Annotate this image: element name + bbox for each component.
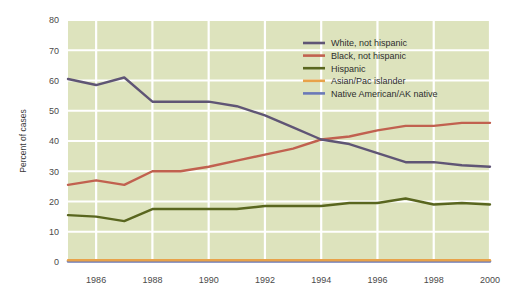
y-tick-label: 60 — [49, 76, 59, 86]
legend-label: Black, not hispanic — [331, 51, 407, 61]
x-tick-label: 1988 — [142, 275, 162, 285]
x-tick-label: 1996 — [367, 275, 387, 285]
x-tick-label: 2000 — [480, 275, 500, 285]
chart-container: 01020304050607080 1986198819901992199419… — [0, 0, 525, 301]
y-axis-tick-labels: 01020304050607080 — [49, 15, 59, 267]
x-tick-label: 1990 — [199, 275, 219, 285]
y-tick-label: 0 — [54, 257, 59, 267]
y-tick-label: 30 — [49, 167, 59, 177]
legend-label: White, not hispanic — [331, 38, 408, 48]
y-tick-label: 10 — [49, 227, 59, 237]
y-tick-label: 40 — [49, 136, 59, 146]
y-tick-label: 70 — [49, 46, 59, 56]
y-axis-title: Percent of cases — [18, 109, 28, 172]
x-tick-label: 1986 — [86, 275, 106, 285]
x-tick-label: 1992 — [255, 275, 275, 285]
y-tick-label: 80 — [49, 15, 59, 25]
y-tick-label: 20 — [49, 197, 59, 207]
legend-label: Asian/Pac islander — [331, 76, 406, 86]
line-chart: 01020304050607080 1986198819901992199419… — [0, 0, 525, 301]
legend-label: Hispanic — [331, 64, 366, 74]
y-tick-label: 50 — [49, 106, 59, 116]
legend-label: Native American/AK native — [331, 89, 438, 99]
x-tick-label: 1998 — [424, 275, 444, 285]
x-tick-label: 1994 — [311, 275, 331, 285]
